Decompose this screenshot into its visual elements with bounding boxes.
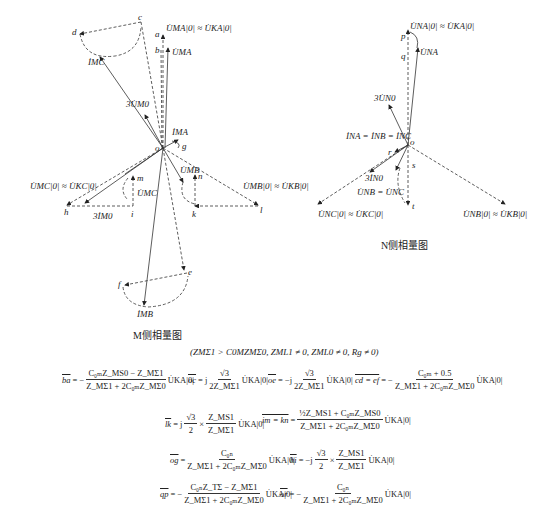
equation-qp: qp = − C₀ₙZ_TΣ − Z_MΣ1Z_MΣ1 + 2C₀ₘZ_MΣ0 … [160, 482, 292, 505]
n-side-caption: N侧相量图 [381, 237, 428, 252]
point-m: m [137, 174, 144, 183]
equation-oc: oc = j √32Z_MΣ1 U̇KA|0| [188, 368, 268, 391]
point-d: d [72, 28, 77, 37]
line-oc [141, 22, 163, 148]
label-i-mc: İMC [88, 58, 105, 67]
label-u-na: U̇NA [420, 48, 438, 57]
m-side-caption: M侧相量图 [133, 327, 182, 342]
conditions: (ZMΣ1 > C0MZMΣ0, ZML1 ≠ 0, ZML0 ≠ 0, Rg … [190, 348, 379, 357]
label-i-n-all: İNA = İNB = İNC [346, 132, 411, 141]
phasor-diagrams [0, 0, 538, 515]
point-q: q [401, 52, 406, 61]
equation-oe: oe = −j √32Z_MΣ1 U̇KA|0| [268, 368, 353, 391]
label-3u-m0: 3U̇M0 [126, 100, 149, 109]
point-i: i [131, 210, 134, 219]
point-h: h [64, 208, 69, 217]
label-u-na0: U̇NA|0| ≈ U̇KA|0| [410, 22, 474, 31]
point-t: t [412, 202, 415, 211]
phasor-u-nb0 [408, 145, 505, 204]
point-o-n: o [410, 138, 415, 147]
point-o-m: o [155, 144, 160, 153]
equation-cd-ef: cd = ef = − C₀ₘ + 0.5Z_MΣ1 + 2C₀ₘZ_MΣ0 U… [355, 368, 503, 391]
label-i-mb: İMB [137, 310, 153, 319]
point-k: k [192, 210, 196, 219]
phasor-i-mb [144, 148, 163, 305]
label-u-mb: U̇MB [180, 166, 200, 175]
label-u-ma0: U̇MA|0| ≈ U̇KA|0| [166, 24, 232, 33]
equation-ba: ba = − C₀ₘZ_MS0 − Z_MΣ1Z_MΣ1 + 2C₀ₘZ_MΣ0… [62, 368, 194, 391]
label-u-nc0: U̇NC|0| ≈ U̇KC|0| [318, 210, 383, 219]
label-u-mc: U̇MC [137, 189, 157, 198]
arc-dc [80, 26, 141, 57]
equation-im-kn: im = kn = ½Z_MS1 + C₀ₘZ_MS0Z_MΣ1 + 2C₀ₘZ… [262, 408, 411, 431]
line-ef [125, 273, 187, 285]
phasor-u-ma [165, 48, 168, 148]
label-u-nb-nc: U̇NB = U̇NC [357, 188, 404, 197]
label-u-ma: U̇MA [172, 48, 192, 57]
point-r: r [388, 148, 392, 157]
label-3i-m0: 3İM0 [93, 212, 113, 221]
point-c: c [138, 13, 142, 22]
point-n: n [198, 172, 203, 181]
point-b: b [155, 46, 160, 55]
point-e: e [188, 268, 192, 277]
point-g: g [182, 142, 187, 151]
label-u-mc0: U̇MC|0| ≈ U̇KC|0| [30, 182, 97, 191]
label-u-nb0: U̇NB|0| ≈ U̇KB|0| [463, 210, 527, 219]
equation-og: og = C₀ₙZ_MΣ1 + 2C₀ₘZ_MΣ0 U̇KA|0| [170, 448, 295, 471]
point-s: s [412, 161, 416, 170]
arc-fe [123, 276, 188, 307]
label-3i-n0: 3İN0 [365, 174, 383, 183]
line-cd [80, 22, 141, 34]
phasor-u-mb0 [163, 148, 258, 205]
equation-hi: hi = −j √32 × Z_MS1Z_MΣ1 U̇KA|0| [290, 448, 394, 471]
point-f: f [118, 280, 121, 289]
point-p: p [401, 32, 406, 41]
point-a: a [155, 30, 160, 39]
label-u-mb0: U̇MB|0| ≈ U̇KB|0| [243, 182, 309, 191]
equation-or: or = − C₀ₙZ_MΣ1 + 2C₀ₘZ_MΣ0 U̇KA|0| [280, 482, 411, 505]
label-i-ma: İMA [172, 128, 188, 137]
point-l: l [260, 206, 263, 215]
equation-lk: lk = j √32 × Z_MS1Z_MΣ1 U̇KA|0| [165, 412, 264, 435]
label-3u-n0: 3U̇N0 [374, 94, 396, 103]
